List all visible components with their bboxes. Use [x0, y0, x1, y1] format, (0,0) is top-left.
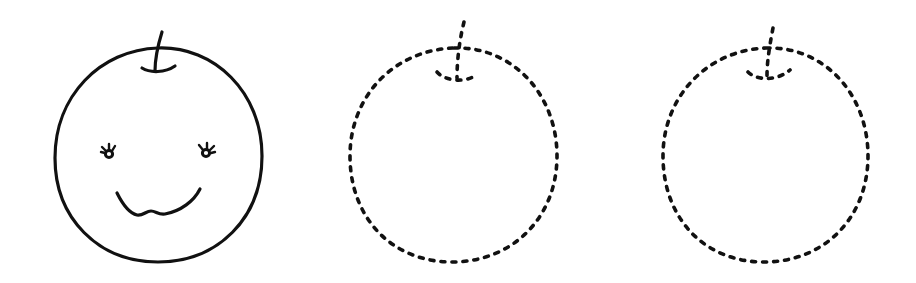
apple-stem-dashed [767, 28, 773, 76]
apple-outline-dashed [350, 48, 557, 262]
apple-outline [55, 48, 262, 262]
smile-mouth [117, 189, 200, 215]
tracing-worksheet: Apple tracing worksheet [0, 0, 916, 283]
trace-apple-1 [350, 22, 557, 262]
left-eye-icon [101, 144, 115, 158]
example-apple [55, 32, 262, 262]
apple-stem [155, 32, 162, 71]
apple-outline-dashed [663, 48, 868, 262]
trace-apple-2 [663, 28, 868, 262]
right-eye-icon [199, 143, 215, 157]
worksheet-drawing [0, 0, 916, 283]
apple-stem-base-dashed [748, 70, 790, 79]
apple-stem-dashed [457, 22, 464, 78]
apple-stem-base [142, 66, 175, 72]
